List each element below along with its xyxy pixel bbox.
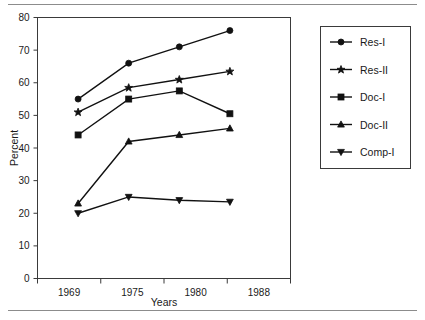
y-tick-label: 70 <box>18 45 30 56</box>
x-tick-label: 1988 <box>248 287 271 298</box>
x-tick-label: 1975 <box>121 287 144 298</box>
y-tick-label: 30 <box>18 175 30 186</box>
series-res-ii <box>74 67 234 115</box>
y-axis-ticks <box>34 18 38 279</box>
series-comp-i <box>75 194 234 217</box>
data-point-marker <box>227 28 233 34</box>
data-point-marker <box>126 96 132 102</box>
data-point-marker <box>227 125 234 131</box>
y-tick-label: 40 <box>18 143 30 154</box>
data-point-marker <box>175 75 183 83</box>
legend-label: Doc-II <box>360 119 388 131</box>
y-axis-title: Percent <box>8 130 20 166</box>
x-axis-ticks <box>38 279 291 284</box>
series-line <box>78 197 230 213</box>
figure-container: 01020304050607080 1969197519801988 Perce… <box>0 0 425 320</box>
data-point-marker <box>75 211 82 217</box>
series-group <box>74 28 234 217</box>
y-tick-label: 60 <box>18 77 30 88</box>
data-point-marker <box>75 132 81 138</box>
legend-label: Res-II <box>360 64 388 76</box>
data-point-marker <box>75 96 81 102</box>
series-line <box>78 31 230 100</box>
series-line <box>78 91 230 135</box>
x-tick-label: 1969 <box>58 287 81 298</box>
data-point-marker <box>338 39 344 45</box>
y-tick-label: 20 <box>18 208 30 219</box>
legend-label: Doc-I <box>360 91 385 103</box>
y-tick-label: 80 <box>18 12 30 23</box>
data-point-marker <box>126 60 132 66</box>
data-point-marker <box>227 111 233 117</box>
series-doc-ii <box>75 125 234 206</box>
data-point-marker <box>74 108 82 116</box>
data-point-marker <box>176 88 182 94</box>
data-point-marker <box>176 44 182 50</box>
line-chart: 01020304050607080 1969197519801988 Perce… <box>0 0 425 320</box>
y-tick-label: 0 <box>24 273 30 284</box>
legend-label: Res-I <box>360 36 385 48</box>
series-res-i <box>75 28 233 103</box>
legend-label: Comp-I <box>360 146 394 158</box>
plot-frame <box>38 18 291 279</box>
y-tick-label: 10 <box>18 240 30 251</box>
y-axis-tick-labels: 01020304050607080 <box>18 12 30 284</box>
x-axis-title: Years <box>151 296 177 308</box>
series-line <box>78 71 230 112</box>
data-point-marker <box>226 67 234 75</box>
series-line <box>78 128 230 203</box>
data-point-marker <box>338 94 344 100</box>
data-point-marker <box>125 84 133 92</box>
x-tick-label: 1980 <box>185 287 208 298</box>
y-tick-label: 50 <box>18 110 30 121</box>
